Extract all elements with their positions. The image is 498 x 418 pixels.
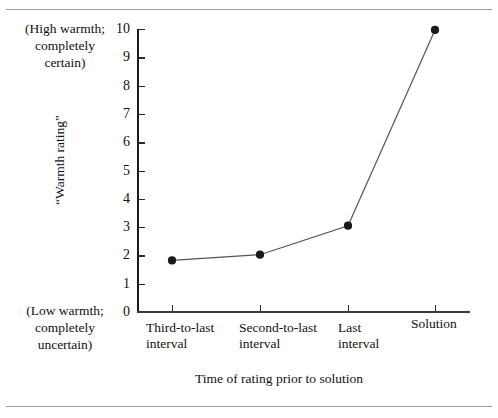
x-axis-title: Time of rating prior to solution [0, 371, 498, 387]
axis-annotation-low-warmth: (Low warmth; completely uncertain) [4, 302, 126, 353]
axis-annotation-line: (Low warmth; [4, 302, 126, 319]
axis-annotation-line: (High warmth; [4, 20, 126, 37]
axis-annotation-line: certain) [4, 54, 126, 71]
axis-annotation-line: completely [4, 37, 126, 54]
axis-annotation-line: completely [4, 319, 126, 336]
axis-annotation-high-warmth: (High warmth; completely certain) [4, 20, 126, 71]
data-point-marker [256, 251, 264, 259]
series-polyline [172, 30, 435, 261]
x-axis-title-text: Time of rating prior to solution [135, 371, 363, 386]
figure-frame: 10 9 8 7 6 5 4 3 2 1 0 [0, 0, 498, 418]
data-point-marker [431, 26, 439, 34]
data-point-marker [168, 256, 176, 264]
data-point-marker [344, 222, 352, 230]
y-axis-title: “Warmth rating” [52, 80, 68, 240]
axis-annotation-line: uncertain) [4, 336, 126, 353]
